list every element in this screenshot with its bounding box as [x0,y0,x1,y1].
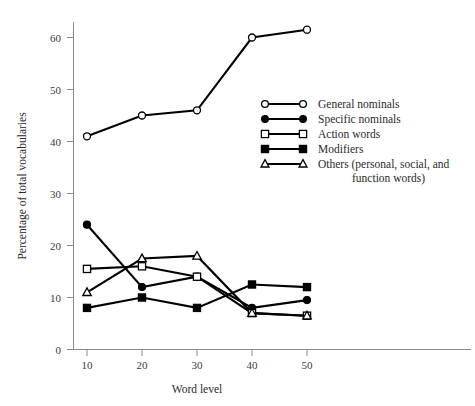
legend-label-action-words: Action words [318,128,381,140]
open-circle-icon [139,112,146,119]
y-tick-label-60: 60 [50,32,62,44]
filled-circle-icon [139,284,146,291]
x-tick-label-10: 10 [82,359,94,371]
legend-label-others-line2: function words) [352,172,425,185]
filled-square-icon [193,304,200,311]
y-tick-label-0: 0 [56,344,62,356]
open-circle-icon [194,107,201,114]
filled-square-icon [261,145,268,152]
open-circle-icon [300,101,307,108]
filled-circle-icon [300,116,307,123]
filled-circle-icon [262,116,269,123]
y-tick-label-40: 40 [50,136,62,148]
x-tick-label-20: 20 [137,359,149,371]
open-circle-icon [249,34,256,41]
filled-square-icon [138,294,145,301]
open-circle-icon [304,26,311,33]
legend-label-specific-nominals: Specific nominals [318,113,401,126]
x-tick-label-30: 30 [192,359,204,371]
y-tick-label-10: 10 [50,292,62,304]
filled-circle-icon [84,221,91,228]
filled-square-icon [303,284,310,291]
legend-label-others-line1: Others (personal, social, and [318,158,450,171]
y-axis-title: Percentage of total vocabularies [16,112,29,260]
x-tick-label-50: 50 [302,359,314,371]
open-circle-icon [84,133,91,140]
y-tick-label-30: 30 [50,188,62,200]
x-tick-label-40: 40 [247,359,259,371]
filled-square-icon [83,304,90,311]
open-circle-icon [262,101,269,108]
chart-svg: 0 10 20 30 40 50 60 10 20 30 40 50 Word … [0,0,475,406]
open-square-icon [193,273,200,280]
y-tick-label-50: 50 [50,84,62,96]
filled-circle-icon [304,297,311,304]
open-square-icon [261,130,268,137]
y-tick-label-20: 20 [50,240,62,252]
open-square-icon [83,265,90,272]
open-square-icon [299,130,306,137]
filled-square-icon [299,145,306,152]
chart-background [0,0,475,406]
legend-label-modifiers: Modifiers [318,143,364,155]
open-square-icon [138,263,145,270]
legend-label-general-nominals: General nominals [318,98,400,110]
x-axis-title: Word level [172,383,223,395]
vocabulary-composition-chart: 0 10 20 30 40 50 60 10 20 30 40 50 Word … [0,0,475,406]
filled-square-icon [248,281,255,288]
